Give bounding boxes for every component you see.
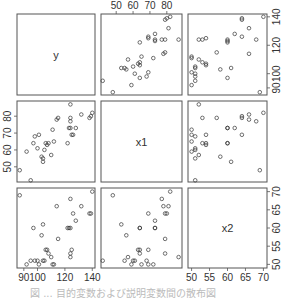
panel-x2-vs-x2: x2 — [188, 188, 267, 268]
data-point — [32, 226, 36, 230]
data-point — [140, 263, 144, 267]
data-point — [55, 204, 59, 208]
panel-x1-vs-y — [17, 101, 95, 182]
data-point — [80, 113, 84, 117]
data-point — [69, 255, 73, 259]
data-point — [74, 126, 78, 130]
svg-text:60: 60 — [128, 0, 140, 11]
svg-text:100: 100 — [271, 65, 282, 82]
data-point — [247, 52, 251, 56]
data-point — [69, 103, 73, 107]
svg-text:140: 140 — [84, 272, 101, 283]
data-point — [147, 248, 151, 252]
data-point — [226, 76, 230, 80]
data-point — [153, 219, 157, 223]
svg-text:120: 120 — [57, 272, 74, 283]
data-point — [177, 38, 181, 42]
data-point — [204, 133, 208, 137]
data-point — [49, 255, 53, 259]
data-point — [126, 255, 130, 259]
data-point — [163, 252, 167, 256]
data-point — [29, 259, 33, 263]
data-point — [190, 71, 194, 75]
data-point — [201, 141, 205, 145]
data-point — [40, 234, 44, 238]
data-point — [145, 259, 149, 263]
data-point — [18, 168, 22, 172]
data-point — [215, 51, 219, 55]
svg-text:50: 50 — [186, 272, 198, 283]
svg-text:70: 70 — [2, 127, 13, 139]
panel-x2-vs-y — [17, 188, 95, 268]
data-point — [130, 83, 134, 87]
variable-label: y — [53, 49, 59, 61]
data-point — [197, 58, 201, 62]
data-point — [226, 126, 230, 130]
data-point — [36, 147, 40, 151]
svg-text:55: 55 — [271, 240, 282, 252]
data-point — [140, 55, 144, 59]
data-point — [41, 223, 45, 227]
right-axis-y: 90100120140 — [267, 8, 282, 93]
data-point — [247, 113, 251, 117]
data-point — [25, 150, 29, 154]
data-point — [33, 135, 37, 139]
bottom-axis-x2: 5055606570 — [186, 268, 269, 283]
data-point — [37, 263, 41, 267]
data-point — [262, 111, 266, 115]
data-point — [51, 128, 55, 132]
svg-text:60: 60 — [271, 222, 282, 234]
svg-text:50: 50 — [2, 161, 13, 173]
data-point — [69, 252, 73, 256]
panel-x1-vs-x2 — [188, 101, 267, 182]
data-point — [190, 133, 194, 137]
data-point — [52, 140, 56, 144]
data-point — [240, 35, 244, 39]
data-point — [25, 263, 29, 267]
data-point — [138, 41, 142, 45]
data-point — [152, 56, 156, 60]
data-point — [177, 255, 181, 259]
data-point — [153, 32, 157, 36]
data-point — [190, 128, 194, 132]
svg-text:50: 50 — [271, 258, 282, 270]
data-point — [193, 157, 197, 161]
data-point — [138, 226, 142, 230]
svg-text:80: 80 — [2, 110, 13, 122]
data-point — [126, 58, 130, 62]
data-point — [219, 155, 223, 159]
data-point — [111, 90, 115, 94]
data-point — [240, 133, 244, 137]
data-point — [49, 153, 53, 157]
data-point — [201, 61, 205, 65]
data-point — [138, 76, 142, 80]
data-point — [160, 197, 164, 201]
svg-text:90: 90 — [271, 82, 282, 94]
data-point — [226, 141, 230, 145]
panel-x1-vs-x1: x1 — [101, 101, 182, 182]
data-point — [190, 150, 194, 154]
svg-text:70: 70 — [144, 0, 156, 11]
svg-text:100: 100 — [29, 272, 46, 283]
panel-y-vs-x2 — [188, 14, 267, 95]
data-point — [66, 141, 70, 145]
data-point — [229, 66, 233, 70]
data-point — [190, 140, 194, 144]
data-point — [168, 15, 172, 19]
svg-text:60: 60 — [222, 272, 234, 283]
data-point — [167, 26, 171, 30]
data-point — [262, 15, 266, 19]
data-point — [201, 38, 205, 42]
data-point — [258, 168, 262, 172]
variable-label: x2 — [222, 222, 234, 234]
data-point — [69, 197, 73, 201]
data-point — [18, 194, 22, 198]
data-point — [131, 65, 135, 69]
data-point — [32, 141, 36, 145]
svg-text:90: 90 — [18, 272, 30, 283]
data-point — [130, 263, 134, 267]
data-point — [193, 79, 197, 83]
data-point — [247, 26, 251, 30]
data-point — [147, 71, 151, 75]
svg-text:65: 65 — [271, 204, 282, 216]
